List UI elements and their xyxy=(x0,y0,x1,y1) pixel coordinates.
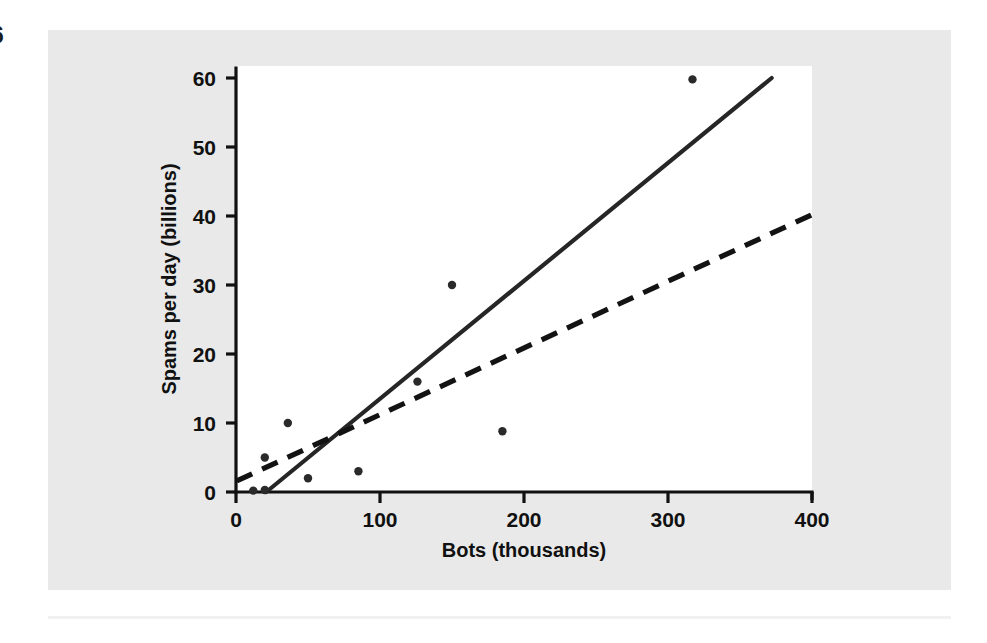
y-tick-label: 30 xyxy=(193,274,216,297)
data-point xyxy=(249,486,257,494)
x-tick-label: 400 xyxy=(794,508,829,531)
scatter-chart: 0102030405060 0100200300400 Bots (thousa… xyxy=(0,0,987,643)
data-point xyxy=(413,377,421,385)
data-point xyxy=(354,467,362,475)
data-point xyxy=(498,427,506,435)
chart-svg: 0102030405060 0100200300400 Bots (thousa… xyxy=(0,0,987,643)
y-tick-label: 10 xyxy=(193,412,216,435)
data-point xyxy=(448,281,456,289)
data-point xyxy=(688,75,696,83)
data-point xyxy=(304,474,312,482)
y-axis-title: Spams per day (billions) xyxy=(158,163,180,394)
data-point xyxy=(261,453,269,461)
x-tick-label: 100 xyxy=(362,508,397,531)
x-axis-title: Bots (thousands) xyxy=(442,539,606,561)
y-axis-ticks: 0102030405060 xyxy=(193,67,236,504)
y-tick-label: 0 xyxy=(204,481,216,504)
x-tick-label: 200 xyxy=(506,508,541,531)
y-tick-label: 50 xyxy=(193,136,216,159)
x-tick-label: 0 xyxy=(230,508,242,531)
y-tick-label: 40 xyxy=(193,205,216,228)
x-tick-label: 300 xyxy=(650,508,685,531)
data-point xyxy=(284,419,292,427)
page-canvas: 6 0102030405060 0100200300400 Bots (thou… xyxy=(0,0,987,643)
x-axis-ticks: 0100200300400 xyxy=(230,492,829,531)
y-tick-label: 60 xyxy=(193,67,216,90)
data-point xyxy=(261,486,269,494)
y-tick-label: 20 xyxy=(193,343,216,366)
